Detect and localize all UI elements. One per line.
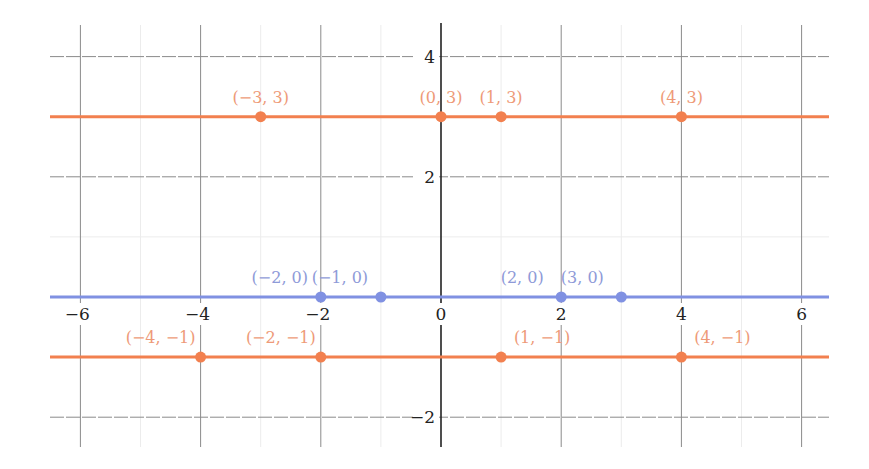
point-label: (−2, 0) xyxy=(252,268,308,287)
point-label: (3, 0) xyxy=(561,268,604,287)
x-tick-label: 6 xyxy=(796,304,807,324)
x-tick-label: 2 xyxy=(556,304,567,324)
y-tick-label: 4 xyxy=(424,47,435,67)
coordinate-plane-chart: −6−4−20246−224 (−3, 3)(0, 3)(1, 3)(4, 3)… xyxy=(0,0,869,469)
data-point xyxy=(556,292,567,303)
point-label: (1, −1) xyxy=(514,328,570,347)
x-tick-label: −2 xyxy=(305,304,330,324)
data-point xyxy=(255,111,266,122)
data-point xyxy=(496,352,507,363)
data-point xyxy=(195,352,206,363)
data-point xyxy=(676,352,687,363)
data-point xyxy=(315,352,326,363)
point-label: (−3, 3) xyxy=(232,88,288,107)
point-label: (2, 0) xyxy=(501,268,544,287)
x-tick-label: −6 xyxy=(65,304,90,324)
data-point xyxy=(496,111,507,122)
data-point xyxy=(315,292,326,303)
data-point xyxy=(676,111,687,122)
point-label: (4, −1) xyxy=(694,328,750,347)
data-point xyxy=(616,292,627,303)
point-label: (−1, 0) xyxy=(312,268,368,287)
y-tick-label: 2 xyxy=(424,167,435,187)
point-label: (−4, −1) xyxy=(126,328,196,347)
point-label: (0, 3) xyxy=(419,88,462,107)
x-tick-label: 0 xyxy=(436,304,447,324)
point-label: (−2, −1) xyxy=(246,328,316,347)
data-point xyxy=(375,292,386,303)
point-label: (4, 3) xyxy=(660,88,703,107)
data-point xyxy=(436,111,447,122)
x-tick-label: 4 xyxy=(676,304,687,324)
y-tick-label: −2 xyxy=(410,407,435,427)
point-label: (1, 3) xyxy=(480,88,523,107)
x-tick-label: −4 xyxy=(185,304,210,324)
